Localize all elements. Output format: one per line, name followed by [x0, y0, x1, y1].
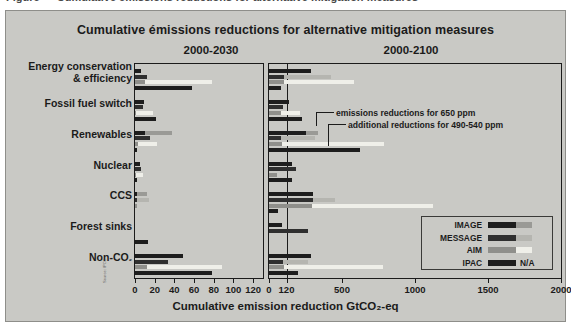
bar-segment-650ppm	[269, 192, 313, 196]
bar-segment-650ppm	[269, 75, 284, 79]
bar-segment-650ppm	[135, 69, 141, 73]
bar-segment-650ppm	[269, 148, 360, 152]
axis-tick-label: 0	[266, 284, 271, 295]
bar	[135, 178, 263, 182]
bar	[269, 86, 561, 90]
bar	[135, 260, 263, 264]
bar-segment-650ppm	[135, 178, 137, 182]
bar-segment-650ppm	[269, 100, 289, 104]
bar-segment-490-540ppm	[138, 142, 157, 146]
bar	[135, 105, 263, 109]
axis-tick-label: 20	[149, 284, 160, 295]
bar-segment-650ppm	[269, 265, 284, 269]
bar	[269, 100, 561, 104]
axis-tick-label: 2000	[550, 284, 571, 295]
legend-swatch-490-540ppm	[516, 247, 532, 253]
annotation-label: additional reductions for 490-540 ppm	[348, 120, 503, 130]
bar	[135, 271, 263, 275]
bar	[269, 209, 561, 213]
bar	[135, 209, 263, 213]
bar-segment-490-540ppm	[136, 173, 143, 177]
bar-segment-650ppm	[269, 136, 281, 140]
bar-segment-650ppm	[135, 117, 156, 121]
axis-tick	[342, 279, 343, 283]
axis-tick-label: 500	[334, 284, 350, 295]
bar-segment-650ppm	[269, 223, 282, 227]
annotation-leader-horizontal	[316, 112, 334, 113]
bar-segment-490-540ppm	[136, 111, 153, 115]
bar-segment-650ppm	[135, 148, 137, 152]
bar-segment-650ppm	[135, 75, 147, 79]
bar-segment-650ppm	[135, 167, 141, 171]
bar	[269, 173, 561, 177]
bar	[135, 240, 263, 244]
bar	[269, 167, 561, 171]
category-label: CCS	[6, 190, 132, 202]
bar-segment-650ppm	[269, 117, 302, 121]
axis-tick	[415, 279, 416, 283]
bar-segment-650ppm	[135, 100, 144, 104]
bar-segment-650ppm	[269, 204, 312, 208]
cropped-caption-text: Figure — Cumulative emissions reductions…	[6, 0, 418, 3]
bar-segment-650ppm	[269, 80, 284, 84]
bar-segment-650ppm	[135, 260, 168, 264]
bar	[135, 86, 263, 90]
bar-segment-650ppm	[135, 265, 147, 269]
legend-item-label: IPAC	[422, 257, 482, 269]
bar	[269, 178, 561, 182]
bar	[135, 100, 263, 104]
bar	[269, 142, 561, 146]
axis-tick	[233, 279, 234, 283]
bar	[269, 131, 561, 135]
bar	[135, 75, 263, 79]
bar-segment-650ppm	[135, 254, 183, 258]
axis-tick	[253, 279, 254, 283]
legend-item: AIM	[422, 244, 552, 256]
bar-segment-650ppm	[269, 229, 308, 233]
axis-tick	[194, 279, 195, 283]
legend-na-label: N/A	[520, 257, 534, 269]
bar-segment-650ppm	[269, 69, 311, 73]
legend: IMAGEMESSAGEAIMIPACN/A	[421, 216, 553, 270]
bar	[135, 235, 263, 239]
bar	[135, 162, 263, 166]
bar	[269, 80, 561, 84]
chart-title: Cumulative émissions reductions for alte…	[6, 23, 565, 37]
bar-segment-650ppm	[135, 86, 192, 90]
bar-segment-650ppm	[269, 260, 283, 264]
bar-segment-490-540ppm	[312, 204, 433, 208]
bar-segment-650ppm	[135, 80, 145, 84]
bar-segment-490-540ppm	[282, 142, 384, 146]
bar-segment-490-540ppm	[306, 131, 318, 135]
axis-tick	[174, 279, 175, 283]
bar-segment-490-540ppm	[283, 260, 309, 264]
category-labels: Energy conservation& efficiencyFossil fu…	[6, 63, 132, 279]
cropped-caption-strip: Figure — Cumulative emissions reductions…	[0, 0, 571, 9]
category-label: Forest sinks	[6, 221, 132, 233]
axis-tick-label: 1500	[477, 284, 498, 295]
bar	[135, 148, 263, 152]
bar	[135, 117, 263, 121]
bar-segment-650ppm	[135, 204, 137, 208]
annotation-leader-vertical	[316, 112, 317, 126]
axis-tick-label: 60	[189, 284, 200, 295]
bar-segment-490-540ppm	[284, 265, 383, 269]
axis-tick-label: 1000	[404, 284, 425, 295]
bar-segment-650ppm	[269, 131, 306, 135]
annotation-leader-horizontal	[328, 124, 346, 125]
bar-segment-490-540ppm	[145, 131, 173, 135]
bar	[135, 80, 263, 84]
bar	[269, 69, 561, 73]
bar-segment-490-540ppm	[137, 198, 149, 202]
legend-swatch-650ppm	[488, 222, 516, 228]
bar-segment-650ppm	[269, 142, 282, 146]
category-label: Nuclear	[6, 160, 132, 172]
panel-label-left: 2000-2030	[156, 44, 266, 56]
legend-item: IMAGE	[422, 219, 552, 231]
bar-segment-490-540ppm	[145, 80, 212, 84]
bar-segment-650ppm	[135, 105, 143, 109]
bar	[135, 254, 263, 258]
bar-segment-490-540ppm	[284, 80, 354, 84]
axis-tick-label: 80	[208, 284, 219, 295]
bar-segment-650ppm	[269, 198, 313, 202]
